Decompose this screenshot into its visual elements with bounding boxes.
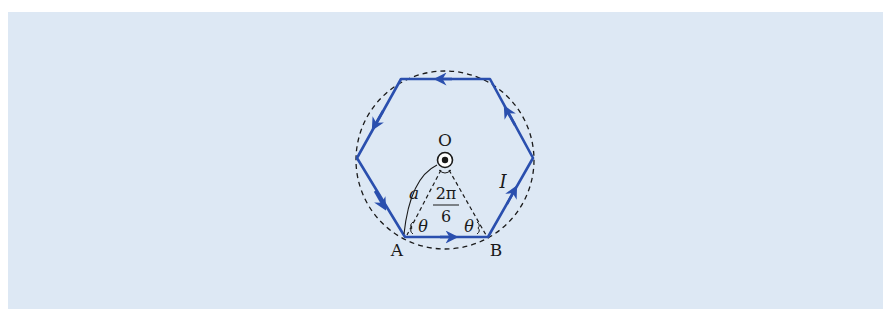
label-center-angle-denominator: 6 — [441, 207, 451, 226]
label-vertex-b: B — [490, 240, 503, 260]
label-angle-theta-right: θ — [464, 217, 474, 236]
diagram-canvas: O A B I a θ θ 2π 6 — [0, 0, 891, 321]
arrow-icon — [375, 111, 383, 125]
label-angle-theta-left: θ — [418, 217, 428, 236]
current-out-of-page-icon — [438, 153, 453, 168]
label-center-angle-numerator: 2π — [436, 184, 457, 203]
angle-arc-b — [477, 222, 479, 234]
label-radius-a: a — [409, 183, 419, 203]
arrow-icon — [507, 191, 514, 204]
label-vertex-a: A — [390, 240, 404, 260]
label-center-o: O — [438, 130, 452, 150]
label-current-i: I — [498, 171, 507, 192]
arrow-icon — [507, 111, 515, 125]
